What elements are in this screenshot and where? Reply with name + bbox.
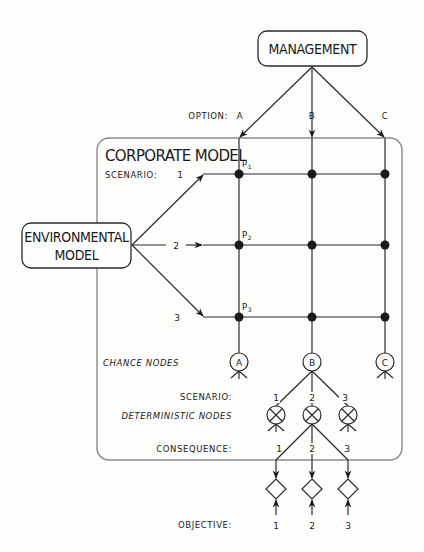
deterministic-node-1 <box>267 406 285 432</box>
branch-b-1 <box>276 371 312 406</box>
dot-c3 <box>381 313 390 322</box>
option-c-label: C <box>382 111 389 121</box>
scenario-header-label: SCENARIO: <box>105 170 157 180</box>
scenario-2-label: 2 <box>173 241 179 251</box>
consequence-row-3: 3 <box>344 444 350 454</box>
option-b-label: B <box>309 111 315 121</box>
deterministic-nodes-label: DETERMINISTIC NODES <box>121 411 232 421</box>
scenario-row-label: SCENARIO: <box>180 392 232 402</box>
option-a-label: A <box>237 111 243 121</box>
dot-b1 <box>308 170 317 179</box>
decision-model-diagram: MANAGEMENT OPTION: A B C CORPORATE MODEL… <box>0 0 424 552</box>
corporate-model-title: CORPORATE MODEL <box>105 147 247 165</box>
objective-row-3: 3 <box>345 521 351 531</box>
environmental-model-node: ENVIRONMENTAL MODEL <box>22 223 131 268</box>
arrow-option-c <box>312 67 384 137</box>
svg-text:B: B <box>309 358 315 368</box>
objective-diamond-1 <box>266 479 286 499</box>
dot-b3 <box>308 313 317 322</box>
scenario-3-label: 3 <box>174 313 180 323</box>
point-p3-label: P3 <box>242 302 252 313</box>
consequence-row-1: 1 <box>276 444 282 454</box>
management-label: MANAGEMENT <box>269 41 358 57</box>
point-p1-label: P1 <box>242 159 252 170</box>
scenario-row-2: 2 <box>309 393 315 403</box>
arrow-scenario-1 <box>132 175 203 245</box>
objective-row-label: OBJECTIVE: <box>178 520 232 530</box>
dot-b2 <box>308 241 317 250</box>
environmental-model-line1: ENVIRONMENTAL <box>24 229 129 245</box>
point-p2-label: P2 <box>242 230 252 241</box>
objective-diamond-2 <box>302 479 322 499</box>
option-label: OPTION: <box>188 111 228 121</box>
svg-text:C: C <box>382 358 388 368</box>
svg-text:A: A <box>236 358 243 368</box>
consequence-row-2: 2 <box>309 444 315 454</box>
chance-node-a: A <box>230 353 248 379</box>
scenario-row-3: 3 <box>342 393 348 403</box>
chance-node-c: C <box>376 353 394 379</box>
chance-node-b: B <box>303 353 321 371</box>
dot-a2 <box>235 241 244 250</box>
dot-c1 <box>381 170 390 179</box>
consequence-row-label: CONSEQUENCE: <box>156 444 232 454</box>
scenario-row-1: 1 <box>273 393 279 403</box>
management-node: MANAGEMENT <box>258 31 367 66</box>
dot-a3 <box>235 313 244 322</box>
dot-c2 <box>381 241 390 250</box>
arrow-option-a <box>240 67 312 137</box>
chance-nodes-label: CHANCE NODES <box>103 358 179 368</box>
dot-a1 <box>235 170 244 179</box>
deterministic-node-2 <box>303 406 321 424</box>
arrow-scenario-3 <box>132 245 203 316</box>
objective-diamond-3 <box>338 479 358 499</box>
deterministic-node-3 <box>339 406 357 432</box>
environmental-model-line2: MODEL <box>55 247 99 263</box>
objective-row-1: 1 <box>273 521 279 531</box>
objective-row-2: 2 <box>309 521 315 531</box>
scenario-1-label: 1 <box>177 170 183 180</box>
